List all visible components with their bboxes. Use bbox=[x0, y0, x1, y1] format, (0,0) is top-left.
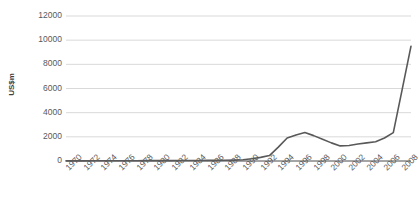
x-axis-tick-label: 1998 bbox=[312, 153, 331, 172]
x-axis-tick-label: 1996 bbox=[294, 153, 313, 172]
x-axis-tick-label: 1980 bbox=[152, 153, 171, 172]
x-axis-tick-label: 1992 bbox=[259, 153, 278, 172]
x-axis-tick-label: 2008 bbox=[400, 153, 419, 172]
line-chart: US$m 020004000600080001000012000 1970197… bbox=[0, 0, 419, 205]
x-axis-tick-label: 1970 bbox=[64, 153, 83, 172]
x-axis-tick-label: 2004 bbox=[365, 153, 384, 172]
x-axis-tick-label: 1986 bbox=[206, 153, 225, 172]
x-axis-tick-label: 1978 bbox=[135, 153, 154, 172]
x-axis-tick-label: 1974 bbox=[99, 153, 118, 172]
x-axis-tick-label: 1976 bbox=[117, 153, 136, 172]
x-axis-tick-label: 2002 bbox=[347, 153, 366, 172]
x-axis-tick-label: 2000 bbox=[329, 153, 348, 172]
x-axis-tick-label: 1972 bbox=[82, 153, 101, 172]
x-axis-tick-label: 1982 bbox=[170, 153, 189, 172]
x-axis-tick-label: 1990 bbox=[241, 153, 260, 172]
x-axis-tick-label: 2006 bbox=[382, 153, 401, 172]
x-axis-tick-label: 1994 bbox=[276, 153, 295, 172]
x-axis-tick-label: 1984 bbox=[188, 153, 207, 172]
x-axis-tick-label: 1988 bbox=[223, 153, 242, 172]
x-axis-tick-labels: 1970197219741976197819801982198419861988… bbox=[0, 0, 419, 205]
